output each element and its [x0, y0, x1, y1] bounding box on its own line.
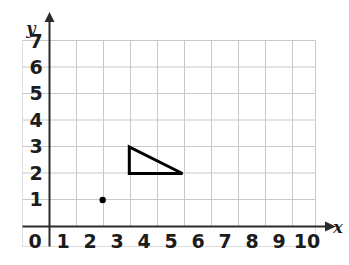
- figure-frame: [23, 41, 316, 247]
- y-tick-5: 5: [29, 82, 42, 104]
- x-tick-8: 8: [245, 230, 258, 252]
- y-tick-4: 4: [29, 109, 42, 131]
- x-tick-9: 9: [272, 230, 285, 252]
- coordinate-grid-figure: y x 0 1 2 3 4 5 6 7 8 9 10 1 2 3 4 5 6 7: [0, 0, 349, 265]
- y-tick-labels: 1 2 3 4 5 6 7: [29, 30, 42, 210]
- x-tick-2: 2: [83, 230, 96, 252]
- y-tick-3: 3: [29, 135, 42, 157]
- axes: [23, 12, 337, 247]
- x-tick-7: 7: [218, 230, 231, 252]
- y-tick-7: 7: [29, 30, 42, 52]
- right-triangle-shape: [129, 147, 182, 174]
- y-axis-arrow-icon: [45, 12, 55, 22]
- tick-label-origin: 0: [28, 230, 41, 252]
- x-tick-1: 1: [56, 230, 69, 252]
- x-axis-label: x: [332, 218, 343, 237]
- plotted-point: [100, 197, 106, 203]
- coordinate-plane-svg: y x 0 1 2 3 4 5 6 7 8 9 10 1 2 3 4 5 6 7: [0, 0, 349, 265]
- x-tick-10: 10: [294, 230, 320, 252]
- y-tick-6: 6: [29, 56, 42, 78]
- x-tick-labels: 1 2 3 4 5 6 7 8 9 10: [56, 230, 320, 252]
- x-tick-6: 6: [191, 230, 204, 252]
- y-tick-1: 1: [29, 188, 42, 210]
- x-tick-3: 3: [110, 230, 123, 252]
- y-tick-2: 2: [29, 162, 42, 184]
- x-tick-4: 4: [137, 230, 150, 252]
- x-tick-5: 5: [164, 230, 177, 252]
- grid-lines: [23, 41, 316, 227]
